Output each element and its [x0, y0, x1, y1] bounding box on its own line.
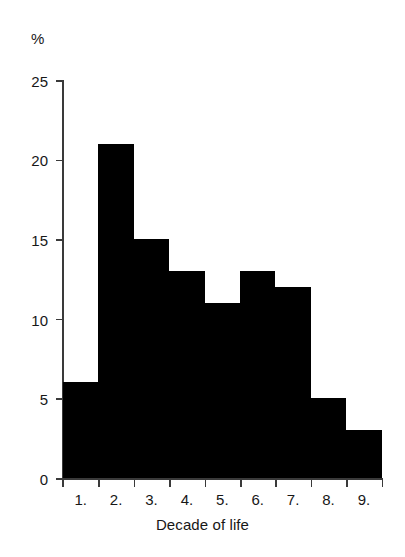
- x-tick-edge-4: [205, 478, 207, 487]
- y-tick-label-0: 0: [40, 471, 48, 486]
- bar-decade-6: [240, 271, 275, 478]
- y-tick-5: 5: [56, 398, 63, 400]
- y-tick-label-15: 15: [31, 232, 48, 247]
- x-tick-label-4: 4.: [181, 492, 194, 508]
- y-tick-20: 20: [56, 160, 63, 162]
- histogram-figure: % 25 20 15 10 5 0: [0, 0, 405, 557]
- x-tick-label-6: 6.: [251, 492, 264, 508]
- bar-decade-9: [346, 430, 382, 478]
- x-tick-edge-0: [62, 478, 64, 487]
- x-axis-line: [62, 478, 383, 480]
- x-tick-edge-2: [134, 478, 136, 487]
- bar-decade-5: [205, 303, 240, 478]
- x-tick-edge-9: [382, 478, 384, 487]
- x-axis-title: Decade of life: [0, 516, 405, 533]
- y-axis-unit-label: %: [31, 31, 45, 47]
- bar-decade-8: [311, 398, 346, 478]
- y-tick-25: 25: [56, 80, 63, 82]
- x-tick-edge-7: [311, 478, 313, 487]
- plot-area: 25 20 15 10 5 0: [63, 80, 382, 478]
- bar-decade-1: [63, 382, 98, 478]
- x-tick-label-7: 7.: [287, 492, 300, 508]
- x-tick-label-2: 2.: [110, 492, 123, 508]
- x-tick-label-1: 1.: [74, 492, 87, 508]
- x-tick-edge-5: [240, 478, 242, 487]
- y-tick-label-25: 25: [31, 73, 48, 88]
- x-tick-label-8: 8.: [322, 492, 335, 508]
- x-tick-edge-1: [98, 478, 100, 487]
- x-tick-label-3: 3.: [145, 492, 158, 508]
- x-tick-label-5: 5.: [216, 492, 229, 508]
- x-tick-edge-6: [275, 478, 277, 487]
- bar-decade-3: [134, 239, 169, 478]
- y-tick-label-20: 20: [31, 153, 48, 168]
- bar-decade-4: [169, 271, 204, 478]
- y-tick-label-10: 10: [31, 312, 48, 327]
- y-tick-15: 15: [56, 239, 63, 241]
- bar-decade-2: [98, 144, 133, 478]
- x-tick-edge-8: [346, 478, 348, 487]
- bar-decade-7: [275, 287, 310, 478]
- x-tick-label-9: 9.: [358, 492, 371, 508]
- x-tick-edge-3: [169, 478, 171, 487]
- y-tick-label-5: 5: [40, 392, 48, 407]
- y-tick-10: 10: [56, 319, 63, 321]
